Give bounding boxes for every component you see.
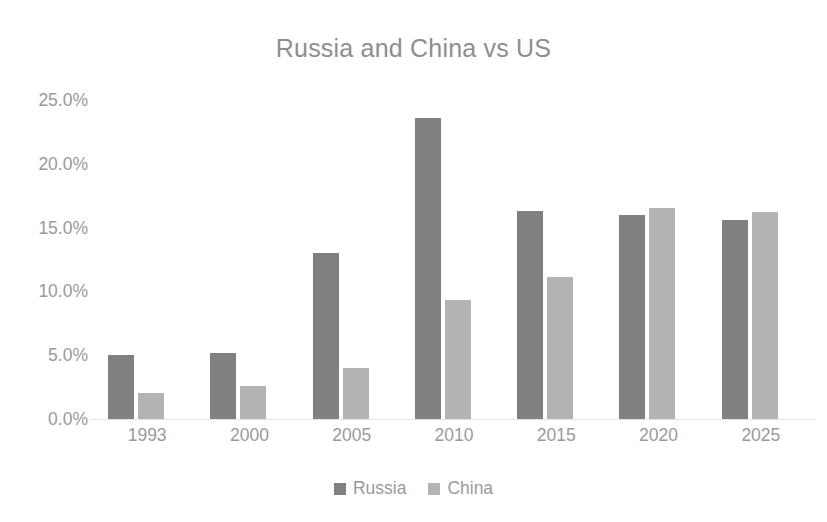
x-axis-tick-label: 2000 — [198, 425, 300, 446]
bar-group — [198, 100, 300, 419]
y-axis-tick-label: 20.0% — [0, 153, 88, 174]
bar-china-2010[interactable] — [445, 300, 471, 419]
axis-baseline — [90, 419, 816, 420]
x-axis-tick-label: 2005 — [301, 425, 403, 446]
x-axis-tick-label: 2015 — [505, 425, 607, 446]
bar-group — [96, 100, 198, 419]
x-axis: 1993200020052010201520202025 — [96, 425, 812, 457]
bar-russia-2000[interactable] — [210, 353, 236, 419]
bar-china-2000[interactable] — [240, 386, 266, 419]
bar-russia-1993[interactable] — [108, 355, 134, 419]
bar-group — [607, 100, 709, 419]
x-axis-tick-label: 2010 — [403, 425, 505, 446]
y-axis: 0.0%5.0%10.0%15.0%20.0%25.0% — [0, 100, 88, 419]
bar-russia-2025[interactable] — [722, 220, 748, 419]
x-axis-tick-label: 2020 — [608, 425, 710, 446]
y-axis-tick-label: 15.0% — [0, 217, 88, 238]
bar-group — [403, 100, 505, 419]
bar-russia-2020[interactable] — [619, 215, 645, 419]
chart-title: Russia and China vs US — [0, 34, 827, 63]
plot-area — [96, 100, 812, 419]
bar-group — [710, 100, 812, 419]
y-axis-tick-label: 0.0% — [0, 409, 88, 430]
bar-china-2020[interactable] — [649, 208, 675, 419]
legend-label: Russia — [353, 478, 407, 499]
y-axis-tick-label: 10.0% — [0, 281, 88, 302]
legend-swatch-icon — [334, 483, 346, 495]
bar-china-1993[interactable] — [138, 393, 164, 419]
legend-item-russia[interactable]: Russia — [334, 478, 407, 499]
legend-label: China — [447, 478, 493, 499]
bar-russia-2005[interactable] — [313, 253, 339, 419]
bar-china-2005[interactable] — [343, 368, 369, 419]
bar-russia-2010[interactable] — [415, 118, 441, 419]
bar-group — [505, 100, 607, 419]
y-axis-tick-label: 25.0% — [0, 90, 88, 111]
x-axis-tick-label: 2025 — [710, 425, 812, 446]
chart-legend: RussiaChina — [0, 478, 827, 499]
bar-group — [301, 100, 403, 419]
chart-container: Russia and China vs US 0.0%5.0%10.0%15.0… — [0, 0, 827, 522]
bar-china-2025[interactable] — [752, 212, 778, 419]
bar-russia-2015[interactable] — [517, 211, 543, 419]
legend-item-china[interactable]: China — [428, 478, 493, 499]
y-axis-tick-label: 5.0% — [0, 345, 88, 366]
bar-china-2015[interactable] — [547, 277, 573, 419]
x-axis-tick-label: 1993 — [96, 425, 198, 446]
legend-swatch-icon — [428, 483, 440, 495]
